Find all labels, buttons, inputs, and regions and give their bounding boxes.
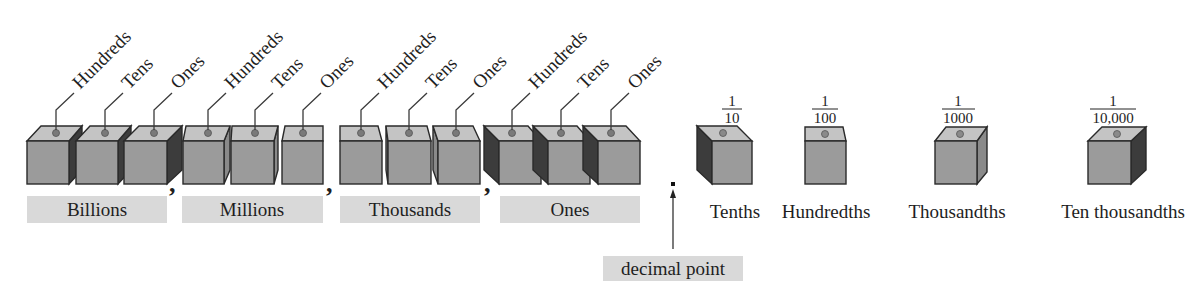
tenths-denominator: 10 (725, 110, 740, 126)
peg-icon (453, 130, 460, 137)
peg-icon (822, 131, 829, 138)
ones-period-label: Ones (550, 199, 589, 220)
cube-ones-tens (533, 126, 590, 184)
cube-billions-tens (76, 126, 131, 184)
period-label-boxes: Billions Millions Thousands Ones (27, 196, 640, 223)
place-label-billions-tens: Tens (117, 53, 157, 93)
comma-thousands-ones: , (484, 169, 491, 198)
ten-thousandths-place: 1 10,000 Ten thousandths (1061, 93, 1185, 222)
ten-thousandths-label: Ten thousandths (1061, 201, 1185, 222)
place-label-ones-tens: Tens (573, 53, 613, 93)
billions-label: Billions (67, 199, 127, 220)
cube-thousands-hundreds (340, 126, 382, 184)
place-leaders (56, 93, 629, 130)
decimal-places: 1 10 Tenths 1 100 Hundredths 1 1000 (697, 93, 1185, 222)
billions-period (27, 126, 182, 184)
thousandths-denominator: 1000 (943, 110, 973, 126)
thousands-label: Thousands (369, 199, 451, 220)
ten-thousandths-denominator: 10,000 (1092, 110, 1133, 126)
cube-billions-hundreds (27, 126, 82, 184)
hundredths-place: 1 100 Hundredths (782, 93, 871, 222)
place-value-diagram: Billions Millions Thousands Ones (0, 0, 1203, 296)
peg-icon (957, 131, 964, 138)
place-label-thousands-tens: Tens (421, 53, 461, 93)
peg-icon (720, 130, 727, 137)
peg-icon (509, 130, 516, 137)
hundredths-denominator: 100 (814, 110, 837, 126)
hundredths-numerator: 1 (821, 93, 829, 109)
thousandths-label: Thousandths (908, 201, 1005, 222)
comma-millions-thousands: , (326, 169, 333, 198)
peg-icon (205, 130, 212, 137)
place-label-millions-tens: Tens (267, 53, 307, 93)
cube-thousands-ones (433, 126, 480, 184)
peg-icon (406, 130, 413, 137)
peg-icon (558, 130, 565, 137)
ten-thousandths-numerator: 1 (1109, 93, 1117, 109)
ones-period (484, 126, 640, 184)
cube-millions-tens (231, 126, 278, 184)
decimal-point-dot (671, 182, 675, 186)
millions-period (183, 126, 323, 184)
place-label-billions-ones: Ones (166, 50, 208, 92)
peg-icon (151, 130, 158, 137)
cube-thousands-tens (386, 126, 431, 184)
tenths-place: 1 10 Tenths (697, 93, 760, 222)
decimal-point-label: decimal point (621, 258, 726, 279)
peg-icon (300, 130, 307, 137)
tenths-numerator: 1 (728, 93, 736, 109)
peg-icon (608, 130, 615, 137)
place-label-ones-ones: Ones (623, 50, 665, 92)
place-label-millions-ones: Ones (315, 50, 357, 92)
thousandths-place: 1 1000 Thousandths (908, 93, 1005, 222)
arrow-up-icon (670, 189, 676, 198)
peg-icon (252, 130, 259, 137)
place-labels: Hundreds Tens Ones Hundreds Tens Ones Hu… (68, 26, 665, 93)
thousandths-numerator: 1 (954, 93, 962, 109)
peg-icon (53, 130, 60, 137)
cube-millions-hundreds (183, 126, 230, 184)
peg-icon (102, 130, 109, 137)
hundredths-label: Hundredths (782, 201, 871, 222)
peg-icon (1114, 131, 1121, 138)
millions-label: Millions (220, 199, 284, 220)
comma-billions-millions: , (169, 169, 176, 198)
cube-millions-ones (282, 126, 323, 184)
peg-icon (358, 130, 365, 137)
cube-ones-ones (583, 126, 640, 184)
thousands-period (340, 126, 480, 184)
tenths-label: Tenths (710, 201, 760, 222)
place-label-thousands-ones: Ones (468, 50, 510, 92)
